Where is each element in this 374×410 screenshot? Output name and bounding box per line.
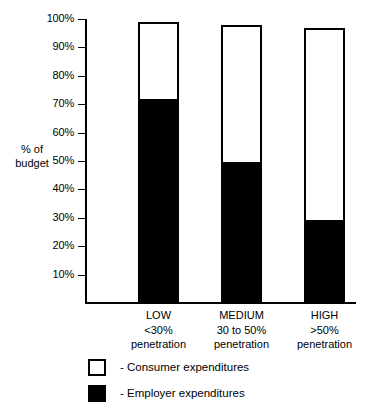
y-tick-mark — [78, 218, 86, 219]
y-tick-mark — [78, 161, 86, 162]
y-tick-label: 40% — [28, 183, 74, 194]
category-range: >50% — [270, 323, 374, 338]
y-tick-mark — [78, 275, 86, 276]
y-tick-label-text: 100% — [30, 13, 74, 24]
legend-label-employer: - Employer expenditures — [120, 387, 245, 400]
bar-segment-employer-low — [140, 99, 177, 301]
y-tick-label-text: 40% — [30, 183, 74, 194]
category-penetration-word: penetration — [270, 337, 374, 352]
y-axis-title-line1: % of — [21, 143, 43, 155]
y-tick-label: 60% — [28, 127, 74, 138]
legend-swatch-employer-icon — [88, 385, 106, 402]
y-axis-title: % of budget — [4, 142, 60, 170]
y-tick-label-text: 10% — [30, 269, 74, 280]
bar-low — [138, 22, 179, 303]
y-tick-label-text: 90% — [30, 41, 74, 52]
y-tick-label: 90% — [28, 41, 74, 52]
legend-swatch-consumer-icon — [88, 359, 106, 376]
y-axis-title-line2: budget — [15, 157, 49, 169]
y-tick-label: 80% — [28, 70, 74, 81]
bar-segment-employer-high — [306, 220, 343, 301]
y-tick-mark — [78, 104, 86, 105]
y-tick-label-text: 70% — [30, 98, 74, 109]
category-label-high: HIGH>50%penetration — [270, 308, 374, 352]
plot-area: 100%90%80%70%60%50%40%30%20%10% % of bud… — [0, 0, 374, 320]
y-tick-mark — [78, 19, 86, 20]
bar-medium — [221, 25, 262, 303]
y-tick-label: 70% — [28, 98, 74, 109]
bar-segment-employer-medium — [223, 162, 260, 301]
y-tick-label-text: 20% — [30, 240, 74, 251]
y-tick-mark — [78, 246, 86, 247]
category-name: HIGH — [270, 308, 374, 323]
y-tick-label-text: 80% — [30, 70, 74, 81]
y-tick-mark — [78, 133, 86, 134]
y-tick-label-text: 30% — [30, 212, 74, 223]
y-tick-label: 20% — [28, 240, 74, 251]
stacked-bar-chart: 100%90%80%70%60%50%40%30%20%10% % of bud… — [0, 0, 374, 410]
y-tick-mark — [78, 189, 86, 190]
y-tick-mark — [78, 76, 86, 77]
y-tick-label-text: 60% — [30, 127, 74, 138]
y-tick-mark — [78, 47, 86, 48]
legend-label-consumer: - Consumer expenditures — [120, 361, 249, 374]
y-tick-label: 30% — [28, 212, 74, 223]
y-tick-label: 10% — [28, 269, 74, 280]
y-tick-label: 100% — [28, 13, 74, 24]
bar-high — [304, 28, 345, 303]
